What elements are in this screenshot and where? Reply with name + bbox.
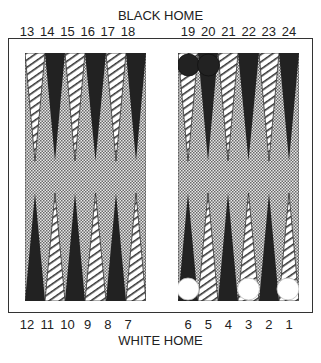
point-number: 14 [37,24,57,39]
point-number: 18 [118,24,138,39]
point-number: 4 [218,317,238,332]
white-checker[interactable] [277,278,299,300]
point-number: 2 [259,317,279,332]
white-checker[interactable] [238,278,260,300]
point-number: 22 [239,24,259,39]
white-checker[interactable] [178,278,199,300]
point-number: 11 [37,317,57,332]
top-right-point-numbers: 19 20 21 22 23 24 [178,24,299,39]
point-number: 13 [17,24,37,39]
point-number: 19 [178,24,198,39]
point-number: 10 [57,317,77,332]
bottom-left-point-numbers: 12 11 10 9 8 7 [17,317,138,332]
point-number: 8 [98,317,118,332]
top-left-point-numbers: 13 14 15 16 17 18 [17,24,138,39]
left-board-half [25,53,146,301]
point-number: 24 [279,24,299,39]
point-number: 5 [198,317,218,332]
point-number: 12 [17,317,37,332]
right-board-half [178,53,299,301]
point-number: 20 [198,24,218,39]
point-number: 3 [239,317,259,332]
point-number: 21 [218,24,238,39]
black-checker[interactable] [198,54,220,76]
point-number: 6 [178,317,198,332]
point-number: 23 [259,24,279,39]
point-number: 16 [78,24,98,39]
point-number: 9 [78,317,98,332]
bottom-right-point-numbers: 6 5 4 3 2 1 [178,317,299,332]
point-number: 1 [279,317,299,332]
point-number: 7 [118,317,138,332]
white-home-label: WHITE HOME [0,333,321,348]
point-number: 15 [57,24,77,39]
black-checker[interactable] [178,54,200,76]
point-number: 17 [98,24,118,39]
black-home-label: BLACK HOME [0,8,321,23]
